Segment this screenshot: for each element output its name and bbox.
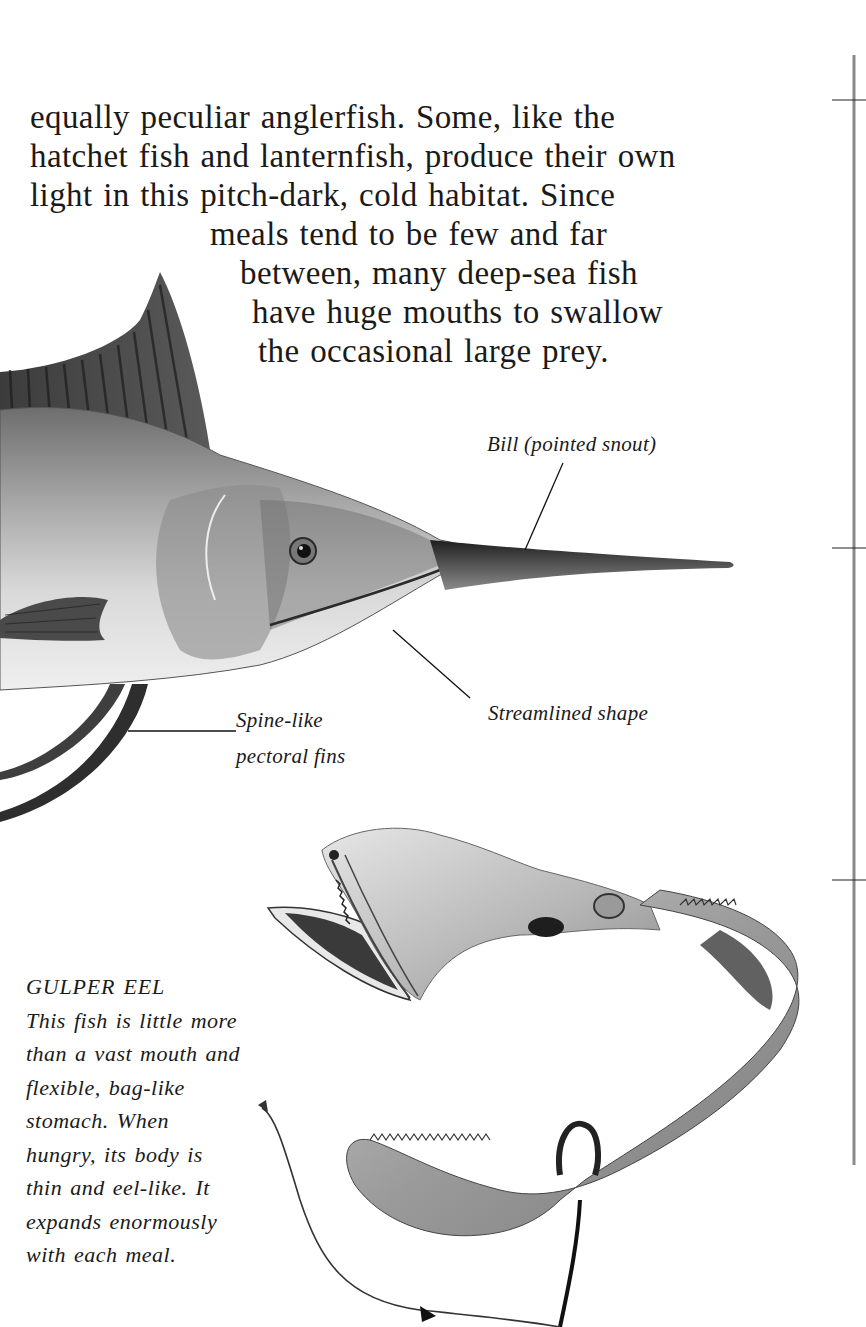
body-text-line-6: have huge mouths to swallow [252,293,663,332]
body-text-line-4: meals tend to be few and far [210,215,607,254]
bill-leader-line [525,463,563,550]
streamlined-leader-line [393,630,470,698]
caption-line: than a vast mouth and [26,1037,316,1071]
caption-line: thin and eel-like. It [26,1171,316,1205]
caption-line: with each meal. [26,1238,316,1272]
caption-line: stomach. When [26,1104,316,1138]
caption-line: This fish is little more [26,1004,316,1038]
caption-line: hungry, its body is [26,1138,316,1172]
body-text-line-3: light in this pitch-dark, cold habitat. … [30,176,615,215]
body-text-line-2: hatchet fish and lanternfish, produce th… [30,137,676,176]
gulper-eel-caption: GULPER EEL This fish is little more than… [26,970,316,1272]
label-streamlined-shape: Streamlined shape [488,700,648,726]
body-text-line-1: equally peculiar anglerfish. Some, like … [30,98,615,137]
body-text-line-7: the occasional large prey. [258,332,609,371]
caption-line: flexible, bag-like [26,1071,316,1105]
book-page: equally peculiar anglerfish. Some, like … [0,0,866,1327]
caption-line: expands enormously [26,1205,316,1239]
gulper-eel-drawing [258,828,799,1327]
body-text-line-5: between, many deep-sea fish [240,254,638,293]
caption-heading: GULPER EEL [26,970,316,1004]
label-spine-like: Spine-like [236,707,323,733]
depth-scale [832,55,866,1165]
label-pectoral-fins: pectoral fins [236,743,345,769]
label-bill: Bill (pointed snout) [487,431,656,457]
